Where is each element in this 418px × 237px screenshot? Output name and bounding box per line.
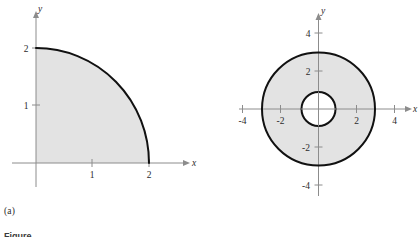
x-axis-arrowhead-b bbox=[405, 106, 412, 112]
y-tick-label-2-a: 2 bbox=[24, 44, 29, 54]
y-tick-label-2-b: 2 bbox=[306, 67, 311, 77]
figure-caption-fragment: Figure bbox=[4, 231, 134, 237]
x-tick-label-neg2-b: -2 bbox=[277, 116, 285, 126]
y-tick-label-4-b: 4 bbox=[306, 29, 311, 39]
x-axis-label-a: x bbox=[191, 158, 197, 168]
x-tick-label-2-b: 2 bbox=[354, 116, 359, 126]
y-axis-label-b: y bbox=[320, 6, 326, 16]
panel-a-sublabel: (a) bbox=[4, 206, 15, 216]
y-axis-label-a: y bbox=[37, 4, 43, 14]
figure-container: 1 2 1 2 x y (a) bbox=[0, 0, 418, 237]
y-tick-label-neg4-b: -4 bbox=[302, 181, 310, 191]
panel-b-plot: -4 -2 2 4 4 2 -2 -4 x y bbox=[209, 0, 418, 237]
y-tick-label-1-a: 1 bbox=[24, 101, 29, 111]
x-tick-label-4-b: 4 bbox=[392, 116, 397, 126]
panel-a: 1 2 1 2 x y (a) bbox=[0, 0, 209, 237]
panel-a-plot: 1 2 1 2 x y bbox=[0, 0, 209, 237]
x-axis-label-b: x bbox=[412, 104, 418, 114]
shaded-quarter-disk bbox=[36, 48, 149, 163]
x-axis-arrowhead-a bbox=[183, 160, 190, 166]
x-tick-label-1-a: 1 bbox=[90, 170, 95, 180]
x-tick-label-neg4-b: -4 bbox=[239, 116, 247, 126]
x-tick-label-2-a: 2 bbox=[147, 170, 152, 180]
panel-b: -4 -2 2 4 4 2 -2 -4 x y (b) bbox=[209, 0, 418, 237]
y-tick-label-neg2-b: -2 bbox=[302, 143, 310, 153]
